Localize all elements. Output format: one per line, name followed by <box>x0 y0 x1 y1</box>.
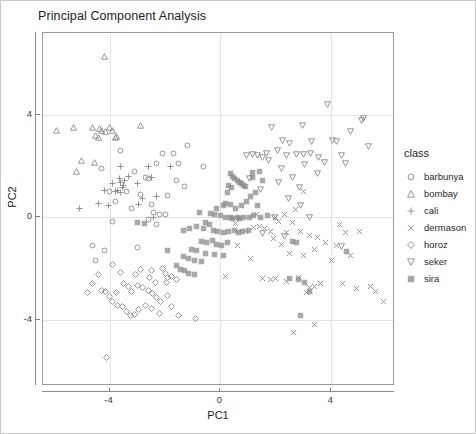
legend-item-label: barbunya <box>424 171 464 182</box>
data-point-sira <box>259 177 266 184</box>
legend-item-seker[interactable]: seker <box>403 253 475 270</box>
data-point-seker <box>329 137 336 144</box>
data-point-seker <box>289 174 296 181</box>
data-point-cali <box>120 182 127 189</box>
legend-item-barbunya[interactable]: barbunya <box>403 168 475 185</box>
data-point-horoz <box>149 290 156 297</box>
legend-item-cali[interactable]: cali <box>403 202 475 219</box>
data-point-horoz <box>164 274 171 281</box>
data-point-horoz <box>134 282 141 289</box>
data-point-seker <box>321 159 328 166</box>
data-point-seker <box>358 117 365 124</box>
data-point-cali <box>116 175 123 182</box>
data-point-seker <box>263 150 270 157</box>
data-point-horoz <box>117 269 124 276</box>
data-point-dermason <box>311 246 318 253</box>
data-point-seker <box>314 170 321 177</box>
legend-title: class <box>403 147 475 159</box>
data-point-sira <box>236 179 243 186</box>
data-point-sira <box>196 209 203 216</box>
data-point-seker <box>259 230 266 237</box>
data-point-horoz <box>163 279 170 286</box>
data-point-dermason <box>290 329 297 336</box>
data-point-sira <box>234 177 241 184</box>
data-point-seker <box>308 138 315 145</box>
data-point-bombay <box>96 125 103 132</box>
data-point-dermason <box>306 232 313 239</box>
data-point-sira <box>193 247 200 254</box>
data-point-horoz <box>175 312 182 319</box>
data-point-horoz <box>142 302 149 309</box>
cross-x-icon <box>403 220 419 236</box>
data-point-cali <box>76 205 83 212</box>
data-point-cali <box>117 179 124 186</box>
gridline-x-0 <box>220 33 221 384</box>
data-point-dermason <box>234 242 241 249</box>
data-point-sira <box>206 221 213 228</box>
legend-items: barbunyabombaycalidermasonhorozsekersira <box>403 168 475 287</box>
legend-item-bombay[interactable]: bombay <box>403 185 475 202</box>
data-point-bombay <box>98 127 105 134</box>
data-point-cali <box>117 163 124 170</box>
x-tick-label: 0 <box>207 394 231 405</box>
data-point-sira <box>227 170 234 177</box>
data-point-horoz <box>173 276 180 283</box>
legend-item-horoz[interactable]: horoz <box>403 236 475 253</box>
data-point-dermason <box>367 283 374 290</box>
data-point-sira <box>141 220 148 227</box>
data-point-dermason <box>289 219 296 226</box>
legend-item-dermason[interactable]: dermason <box>403 219 475 236</box>
data-point-sira <box>185 270 192 277</box>
y-axis-title: PC2 <box>6 167 18 227</box>
legend-item-sira[interactable]: sira <box>403 270 475 287</box>
data-point-cali <box>145 163 152 170</box>
data-point-horoz <box>113 289 120 296</box>
data-point-barbunya <box>159 150 166 157</box>
data-point-dermason <box>372 288 379 295</box>
legend-item-label: horoz <box>424 239 448 250</box>
data-point-cali <box>139 195 146 202</box>
data-point-sira <box>198 258 205 265</box>
data-point-sira <box>180 253 187 260</box>
data-point-sira <box>293 239 300 246</box>
data-point-bombay <box>101 53 108 60</box>
data-point-seker <box>299 122 306 129</box>
legend-item-label: cali <box>424 205 438 216</box>
data-point-cali <box>134 180 141 187</box>
data-point-seker <box>315 154 322 161</box>
data-point-dermason <box>311 283 318 290</box>
data-point-sira <box>245 227 252 234</box>
data-point-barbunya <box>92 257 99 264</box>
data-point-barbunya <box>128 205 135 212</box>
data-point-cali <box>148 174 155 181</box>
data-point-seker <box>249 151 256 158</box>
x-tick-mark <box>219 388 220 392</box>
data-point-bombay <box>91 159 98 166</box>
data-point-sira <box>225 182 232 189</box>
triangle-up-open-icon <box>403 186 419 202</box>
data-point-barbunya <box>170 150 177 157</box>
data-point-seker <box>296 184 303 191</box>
data-point-sira <box>306 288 313 295</box>
data-point-dermason <box>278 241 285 248</box>
data-point-sira <box>180 227 187 234</box>
data-point-dermason <box>314 234 321 241</box>
data-point-seker <box>243 152 250 159</box>
data-point-dermason <box>300 252 307 259</box>
data-point-dermason <box>333 242 340 249</box>
data-point-dermason <box>353 285 360 292</box>
data-point-seker <box>347 128 354 135</box>
data-point-seker <box>333 138 340 145</box>
data-point-horoz <box>84 289 91 296</box>
data-point-sira <box>247 193 254 200</box>
x-tick-mark <box>330 388 331 392</box>
data-point-sira <box>238 202 245 209</box>
data-point-seker <box>281 233 288 240</box>
data-point-barbunya <box>101 247 108 254</box>
data-point-sira <box>213 241 220 248</box>
legend: class barbunyabombaycalidermasonhorozsek… <box>403 147 475 287</box>
data-point-bombay <box>137 122 144 129</box>
data-point-sira <box>173 262 180 269</box>
data-point-sira <box>239 228 246 235</box>
data-point-sira <box>228 184 235 191</box>
